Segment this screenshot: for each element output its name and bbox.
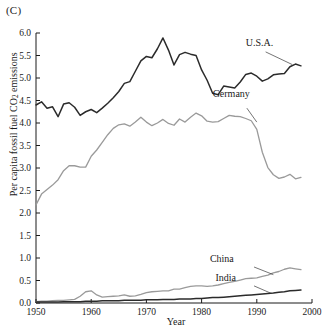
x-tick-label: 1980 xyxy=(192,307,211,317)
y-tick-label: 4.0 xyxy=(19,118,31,128)
y-axis-ticks: 0.00.51.01.52.02.53.03.54.04.55.05.56.0 xyxy=(19,28,40,308)
y-tick-label: 3.0 xyxy=(19,163,31,173)
series-label-china: China xyxy=(210,253,234,264)
x-tick-label: 1970 xyxy=(137,307,156,317)
x-tick-label: 1960 xyxy=(82,307,101,317)
series-line-usa xyxy=(36,38,301,117)
series-line-china xyxy=(36,268,301,302)
figure-panel-c: (C) Per capita fossil fuel CO2 emissions… xyxy=(0,0,322,332)
series-label-germany: Germany xyxy=(213,88,250,99)
leader-line-usa xyxy=(266,52,293,65)
series-line-india xyxy=(36,290,301,302)
y-tick-label: 2.5 xyxy=(19,186,31,196)
y-tick-label: 5.5 xyxy=(19,51,31,61)
series-annotation-group: U.S.A.GermanyChinaIndia xyxy=(210,37,292,294)
series-line-germany xyxy=(36,113,301,205)
y-tick-label: 0.5 xyxy=(19,276,31,286)
series-label-india: India xyxy=(215,272,236,283)
y-tick-label: 5.0 xyxy=(19,73,31,83)
leader-line-china xyxy=(254,267,273,275)
x-tick-label: 1990 xyxy=(247,307,266,317)
chart-plot-area: 0.00.51.01.52.02.53.03.54.04.55.05.56.0 … xyxy=(0,0,322,332)
y-tick-label: 1.0 xyxy=(19,253,31,263)
series-label-usa: U.S.A. xyxy=(246,37,274,48)
x-tick-label: 1950 xyxy=(27,307,46,317)
y-tick-label: 2.0 xyxy=(19,208,31,218)
y-tick-label: 1.5 xyxy=(19,231,31,241)
y-tick-label: 6.0 xyxy=(19,28,31,38)
x-tick-label: 2000 xyxy=(303,307,322,317)
data-series-group xyxy=(36,38,301,302)
leader-line-india xyxy=(254,286,271,293)
y-tick-label: 3.5 xyxy=(19,141,31,151)
y-tick-label: 4.5 xyxy=(19,96,31,106)
